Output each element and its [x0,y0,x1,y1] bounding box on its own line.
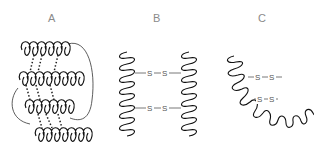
u-shaped-helix-diagram: S S S S [210,0,314,154]
panel-a: A [0,0,105,154]
disulfide-s: S [162,69,167,78]
disulfide-s: S [269,73,274,82]
disulfide-s: S [257,95,262,104]
disulfide-s: S [162,104,167,113]
disulfide-s: S [255,73,260,82]
disulfide-s: S [147,69,152,78]
disulfide-s: S [147,104,152,113]
panel-c: C S S S S [210,0,314,154]
disulfide-s: S [269,95,274,104]
panel-b: B S S S S [105,0,210,154]
helix-stack-diagram [0,0,105,154]
parallel-helices-diagram: S S S S [105,0,210,154]
